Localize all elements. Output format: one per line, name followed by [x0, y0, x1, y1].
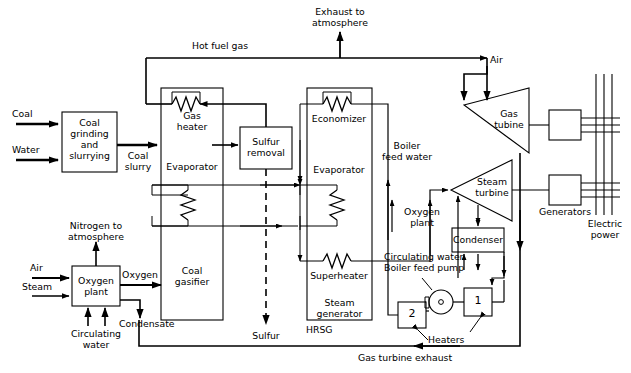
label-gas-turbine-exhaust: Gas turbine exhaust: [330, 352, 480, 363]
coil-gas-heater: [172, 97, 200, 111]
label-boiler-feed-pump: Boiler feed pump: [384, 262, 480, 273]
label-coal-gasifier: Coal gasifier: [161, 265, 223, 287]
label-oxygen: Oxygen: [119, 269, 161, 280]
coil-evaporator-hrsg: [330, 190, 344, 220]
leader-heaters-2: [418, 330, 428, 340]
coil-superheater: [323, 254, 351, 268]
line-evap-gasifier-bottom: [152, 216, 188, 226]
label-economizer: Economizer: [305, 113, 373, 124]
label-boiler-feed-water: Boiler feed water: [376, 140, 438, 162]
label-steam-oxygen-plant: Steam: [22, 281, 62, 292]
label-coal-slurry: Coal slurry: [118, 150, 158, 172]
label-generators: Generators: [533, 206, 597, 217]
stream-condensate: [120, 300, 140, 318]
label-evaporator-gasifier: Evaporator: [156, 161, 228, 172]
label-coal: Coal: [12, 108, 52, 119]
label-air-gas-turbine: Air: [490, 54, 516, 65]
label-circulating-water-oxygen: Circulating water: [60, 328, 132, 350]
label-gas-heater: Gas heater: [161, 110, 223, 132]
line-hrsg-evap-bottom: [300, 216, 337, 226]
label-superheater: Superheater: [303, 270, 375, 281]
label-exhaust-atmosphere: Exhaust to atmosphere: [300, 6, 380, 28]
label-oxygen-plant-stream: Oxygen plant: [395, 206, 449, 228]
leader-bfp: [422, 278, 432, 290]
block-generator-steam: [549, 175, 581, 205]
line-condenser-to-heater1: [492, 252, 504, 285]
line-hotgas-to-gasturbine: [464, 58, 487, 100]
line-heater2-out: [388, 300, 398, 315]
label-oxygen-plant: Oxygen plant: [72, 275, 120, 297]
label-air-oxygen-plant: Air: [30, 262, 58, 273]
block-boiler-feed-pump: [429, 290, 453, 314]
label-hot-fuel-gas: Hot fuel gas: [175, 40, 265, 51]
label-electric-power: Electric power: [580, 218, 630, 240]
process-flow-diagram: Coal Water Coal grinding and slurrying C…: [0, 0, 631, 373]
label-steam-turbine: Steam turbine: [466, 176, 518, 198]
label-condenser: Condenser: [452, 234, 504, 245]
label-steam-generator: Steam generator: [307, 297, 372, 319]
block-generator-gas: [549, 110, 581, 140]
label-hrsg: HRSG: [306, 324, 346, 335]
coil-economizer: [323, 97, 351, 111]
label-coal-grinding: Coal grinding and slurrying: [62, 117, 117, 161]
label-gas-turbine: Gas tubine: [486, 108, 532, 130]
label-nitrogen-atmosphere: Nitrogen to atmosphere: [56, 220, 136, 242]
label-heater-2: 2: [398, 308, 426, 319]
label-sulfur-removal: Sulfur removal: [240, 136, 292, 158]
label-sulfur: Sulfur: [243, 330, 289, 341]
leader-heaters-1: [470, 318, 480, 332]
label-evaporator-hrsg: Evaporator: [305, 164, 373, 175]
label-heaters: Heaters: [428, 334, 472, 345]
pump-hub: [439, 300, 444, 305]
label-circulating-water: Circulating water: [384, 251, 478, 262]
label-heater-1: 1: [464, 295, 492, 306]
label-water: Water: [12, 144, 56, 155]
